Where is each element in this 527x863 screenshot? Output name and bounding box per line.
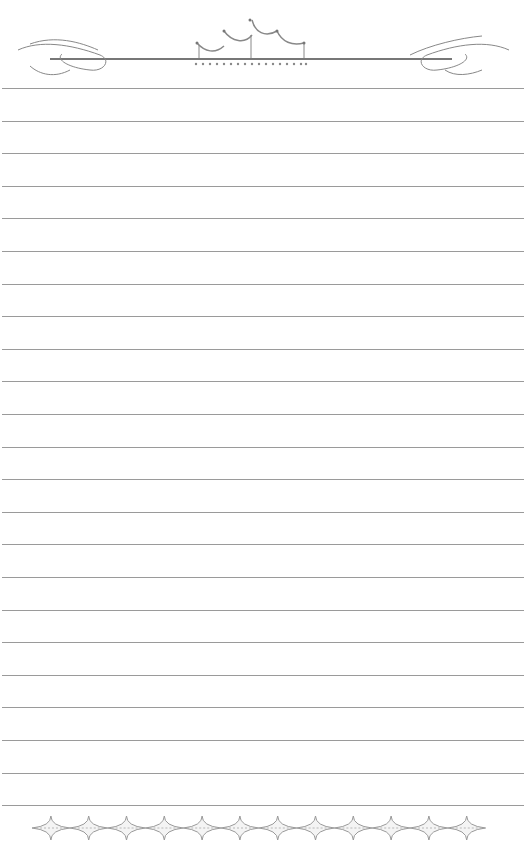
ruled-line: [2, 414, 524, 415]
ruled-line: [2, 284, 524, 285]
ruled-line: [2, 121, 524, 122]
ruled-line: [2, 675, 524, 676]
ruled-line: [2, 447, 524, 448]
ruled-line: [2, 349, 524, 350]
ruled-line: [2, 805, 524, 806]
footer-ornament: [0, 808, 527, 848]
header-ornament: [0, 0, 527, 85]
ruled-line: [2, 642, 524, 643]
ruled-line: [2, 316, 524, 317]
ruled-line: [2, 479, 524, 480]
ruled-line: [2, 544, 524, 545]
ruled-line: [2, 512, 524, 513]
ruled-line: [2, 740, 524, 741]
ruled-line: [2, 153, 524, 154]
ruled-line: [2, 218, 524, 219]
bead-row: [195, 63, 307, 65]
ruled-line: [2, 610, 524, 611]
ruled-line: [2, 186, 524, 187]
ruled-line: [2, 251, 524, 252]
ruled-line: [2, 773, 524, 774]
ruled-line: [2, 577, 524, 578]
ruled-line: [2, 381, 524, 382]
ruled-line: [2, 88, 524, 89]
ruled-line: [2, 707, 524, 708]
